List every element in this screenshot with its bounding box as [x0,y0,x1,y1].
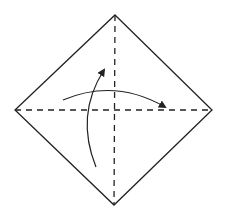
diagram-canvas [0,0,226,213]
arrow-fold-bottom-to-top [87,70,104,167]
